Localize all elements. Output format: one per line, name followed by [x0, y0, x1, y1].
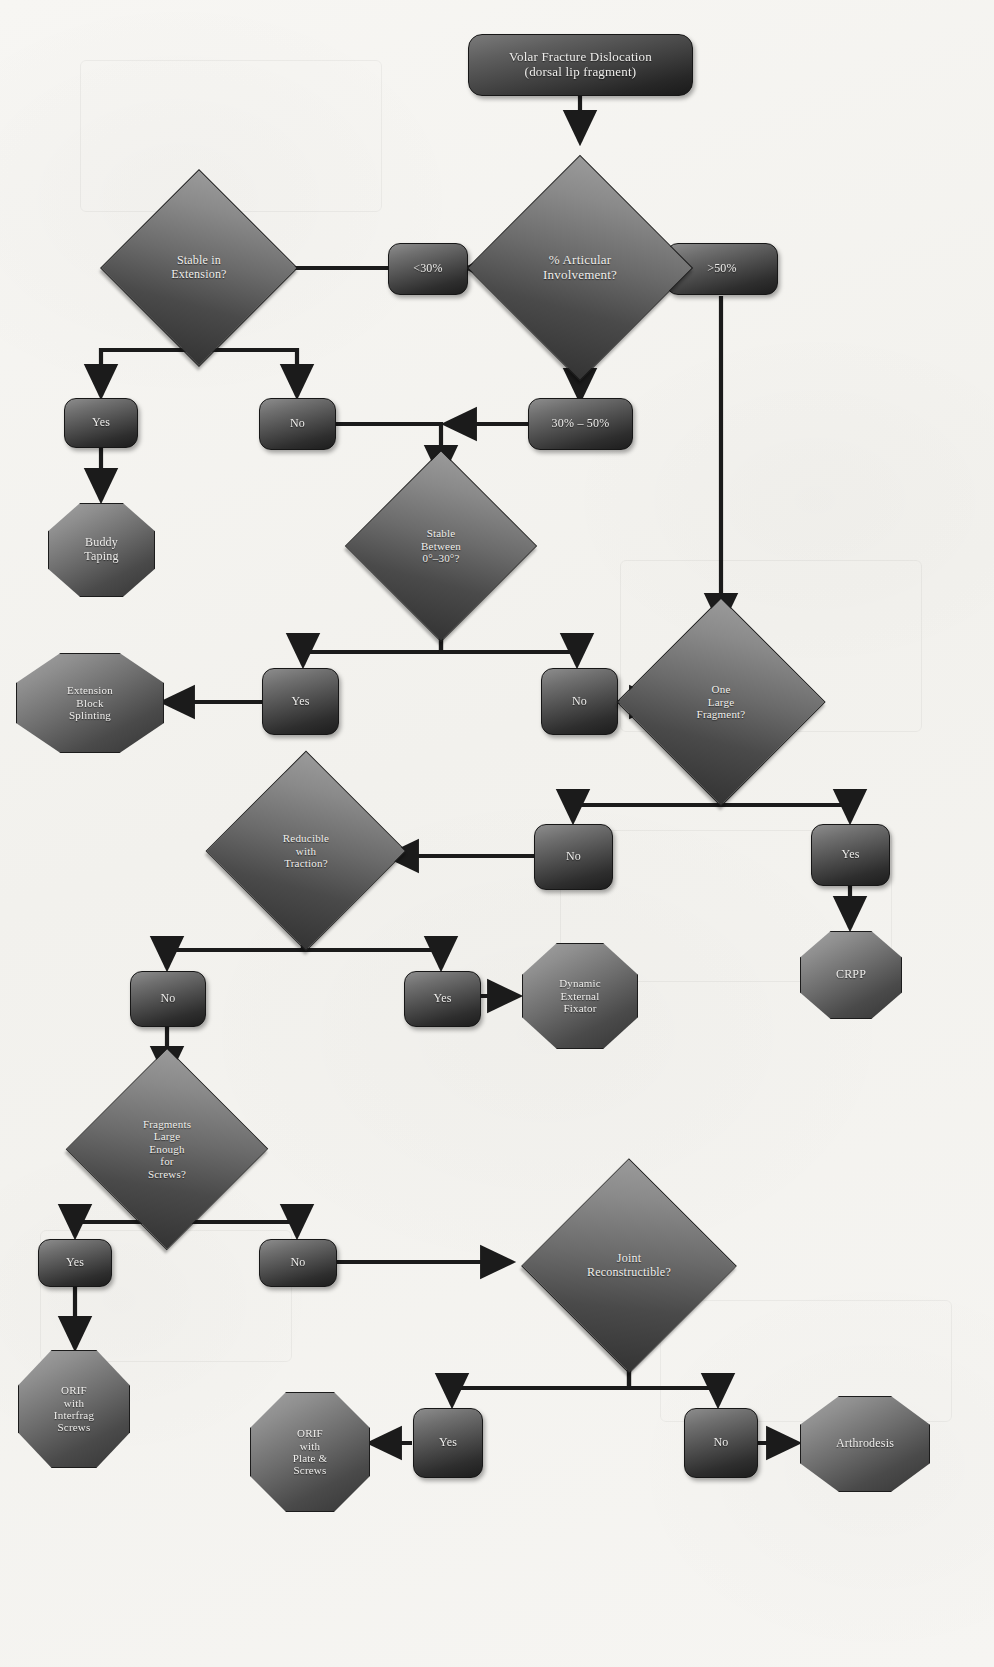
node-start[interactable]: Volar Fracture Dislocation (dorsal lip f…: [468, 34, 693, 96]
q-fragments-line-3: Enough: [149, 1143, 184, 1155]
q-reducible-line-1: Reducible: [283, 832, 329, 844]
node-joint-yes-label: Yes: [435, 1436, 461, 1450]
node-reducible-yes-label: Yes: [429, 992, 455, 1006]
dyn-fixator-line-2: External: [561, 990, 600, 1002]
node-arthrodesis-label: Arthrodesis: [832, 1437, 898, 1451]
node-question-reducible-with-traction[interactable]: Reducible with Traction?: [235, 780, 377, 922]
node-question-stable-in-extension[interactable]: Stable in Extension?: [129, 198, 269, 338]
node-start-line-1: Volar Fracture Dislocation: [509, 49, 652, 64]
node-reducible-yes[interactable]: Yes: [404, 971, 481, 1027]
q-articular-line-1: % Articular: [549, 252, 611, 267]
node-crpp-label: CRPP: [832, 968, 870, 982]
node-start-label: Volar Fracture Dislocation (dorsal lip f…: [505, 50, 656, 79]
q-stable-between-line-2: Between: [421, 540, 461, 552]
node-joint-no-label: No: [709, 1436, 732, 1450]
node-question-fragments-large-enough[interactable]: Fragments Large Enough for Screws?: [82, 1080, 252, 1218]
node-fragments-yes[interactable]: Yes: [38, 1239, 112, 1287]
node-joint-yes[interactable]: Yes: [413, 1408, 483, 1478]
node-question-stable-between-label: Stable Between 0°–30°?: [417, 527, 465, 564]
q-stable-between-line-3: 0°–30°?: [422, 552, 459, 564]
node-orif-interfrag-screws-label: ORIF with Interfrag Screws: [50, 1384, 98, 1434]
node-dynamic-external-fixator[interactable]: Dynamic External Fixator: [522, 943, 638, 1049]
node-pct-30-50-label: 30% – 50%: [548, 417, 614, 431]
node-stable-extension-yes-label: Yes: [88, 416, 114, 430]
node-extension-block-splinting-label: Extension Block Splinting: [63, 684, 117, 721]
buddy-line-1: Buddy: [85, 535, 118, 549]
node-stable-extension-no[interactable]: No: [259, 398, 336, 450]
node-reducible-no[interactable]: No: [130, 971, 206, 1027]
q-joint-recon-line-2: Reconstructible?: [587, 1265, 671, 1279]
node-question-one-large-fragment[interactable]: One Large Fragment?: [647, 628, 795, 776]
q-one-large-line-2: Large: [708, 696, 734, 708]
node-fragments-yes-label: Yes: [62, 1256, 88, 1270]
node-pct-30-50[interactable]: 30% – 50%: [528, 398, 633, 450]
node-fragments-no-label: No: [286, 1256, 309, 1270]
node-question-articular-involvement-label: % Articular Involvement?: [539, 253, 621, 282]
orif-plate-line-3: Plate &: [293, 1452, 328, 1464]
node-arthrodesis[interactable]: Arthrodesis: [800, 1396, 930, 1492]
node-one-large-fragment-yes[interactable]: Yes: [811, 824, 890, 886]
dyn-fixator-line-1: Dynamic: [559, 977, 601, 989]
node-stable-between-no-label: No: [568, 695, 591, 709]
node-question-articular-involvement[interactable]: % Articular Involvement?: [500, 188, 660, 348]
node-stable-extension-no-label: No: [286, 417, 309, 431]
node-one-large-fragment-no-label: No: [562, 850, 585, 864]
q-stable-ext-line-2: Extension?: [171, 267, 226, 281]
node-question-reducible-with-traction-label: Reducible with Traction?: [279, 832, 333, 869]
diagram-canvas: Volar Fracture Dislocation (dorsal lip f…: [0, 0, 994, 1667]
orif-plate-line-2: with: [300, 1440, 320, 1452]
node-question-stable-in-extension-label: Stable in Extension?: [167, 254, 230, 281]
orif-plate-line-4: Screws: [294, 1464, 327, 1476]
q-one-large-line-1: One: [712, 683, 731, 695]
q-fragments-line-5: Screws?: [148, 1168, 186, 1180]
node-one-large-fragment-yes-label: Yes: [837, 848, 863, 862]
q-reducible-line-2: with: [296, 845, 316, 857]
orif-interfrag-line-1: ORIF: [61, 1384, 87, 1396]
orif-plate-line-1: ORIF: [297, 1427, 323, 1439]
q-one-large-line-3: Fragment?: [697, 708, 746, 720]
node-start-line-2: (dorsal lip fragment): [525, 64, 637, 79]
buddy-line-2: Taping: [84, 549, 118, 563]
node-question-joint-reconstructible-label: Joint Reconstructible?: [583, 1252, 675, 1279]
node-pct-lt30-label: <30%: [409, 262, 447, 276]
node-stable-extension-yes[interactable]: Yes: [64, 398, 138, 448]
ext-block-line-3: Splinting: [69, 709, 111, 721]
node-question-joint-reconstructible[interactable]: Joint Reconstructible?: [523, 1192, 735, 1340]
q-fragments-line-4: for: [160, 1155, 173, 1167]
node-one-large-fragment-no[interactable]: No: [534, 824, 613, 890]
node-fragments-no[interactable]: No: [259, 1239, 337, 1287]
node-orif-plate-screws-label: ORIF with Plate & Screws: [289, 1427, 332, 1477]
node-buddy-taping-label: Buddy Taping: [80, 536, 122, 563]
q-fragments-line-1: Fragments: [143, 1118, 191, 1130]
node-crpp[interactable]: CRPP: [800, 931, 902, 1019]
orif-interfrag-line-2: with: [64, 1397, 84, 1409]
node-joint-no[interactable]: No: [684, 1408, 758, 1478]
q-articular-line-2: Involvement?: [543, 267, 617, 282]
orif-interfrag-line-3: Interfrag: [54, 1409, 94, 1421]
node-pct-lt30[interactable]: <30%: [388, 243, 468, 295]
q-stable-between-line-1: Stable: [427, 527, 456, 539]
node-question-fragments-large-enough-label: Fragments Large Enough for Screws?: [139, 1118, 195, 1180]
node-reducible-no-label: No: [156, 992, 179, 1006]
q-reducible-line-3: Traction?: [284, 857, 328, 869]
node-stable-between-yes-label: Yes: [287, 695, 313, 709]
node-question-one-large-fragment-label: One Large Fragment?: [693, 683, 750, 720]
node-pct-gt50-label: >50%: [703, 262, 741, 276]
node-dynamic-external-fixator-label: Dynamic External Fixator: [555, 977, 605, 1014]
q-stable-ext-line-1: Stable in: [177, 253, 221, 267]
node-question-stable-between[interactable]: Stable Between 0°–30°?: [373, 478, 509, 614]
q-fragments-line-2: Large: [154, 1130, 180, 1142]
q-joint-recon-line-1: Joint: [617, 1251, 641, 1265]
node-stable-between-no[interactable]: No: [541, 668, 618, 735]
orif-interfrag-line-4: Screws: [58, 1421, 91, 1433]
node-stable-between-yes[interactable]: Yes: [262, 668, 339, 735]
ext-block-line-2: Block: [76, 697, 103, 709]
ext-block-line-1: Extension: [67, 684, 113, 696]
dyn-fixator-line-3: Fixator: [563, 1002, 596, 1014]
node-orif-plate-screws[interactable]: ORIF with Plate & Screws: [250, 1392, 370, 1512]
